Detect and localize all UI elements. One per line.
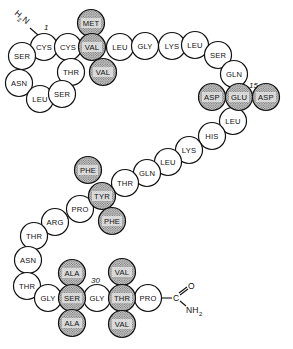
residue-label: LEU (112, 43, 127, 52)
position-marker-30: 30 (91, 276, 100, 285)
residue-label: LYS (165, 42, 179, 51)
residue-ala: ALA (59, 310, 86, 337)
residue-label: ALA (65, 319, 81, 328)
n-terminus-n: N (20, 14, 31, 26)
residue-label: VAL (96, 68, 110, 77)
residue-gln: GLN (221, 61, 248, 88)
residue-label: SER (64, 294, 81, 303)
residue-ser: SER (9, 43, 36, 70)
residue-label: PHE (104, 217, 120, 226)
residue-label: LYS (182, 146, 196, 155)
residue-label: GLY (40, 294, 55, 303)
residue-label: LEU (32, 95, 47, 104)
residue-label: PRO (139, 294, 156, 303)
residue-asp: ASP (199, 84, 226, 111)
residue-label: PRO (71, 205, 88, 214)
c-terminus-carbon: C (173, 293, 179, 303)
residue-glu: GLU (226, 84, 253, 111)
n-terminus: H 2 N 1 (11, 8, 48, 35)
residue-tyr: TYR (89, 183, 116, 210)
residue-label: CYS (60, 43, 76, 52)
residue-gly: GLY (84, 285, 111, 312)
residue-label: VAL (85, 43, 99, 52)
residue-label: LEU (225, 117, 240, 126)
residue-ala: ALA (59, 260, 86, 287)
residue-chain: CYSCYSTHRSERASNLEUSERLEUGLYLYSLEUSERGLNL… (6, 10, 280, 338)
residue-label: TYR (94, 192, 110, 201)
residue-label: ASP (258, 93, 274, 102)
n-terminus-bond (30, 28, 38, 35)
residue-val: VAL (90, 59, 117, 86)
residue-val: VAL (109, 311, 136, 338)
residue-label: GLY (89, 294, 104, 303)
residue-label: GLN (139, 169, 155, 178)
residue-phe: PHE (75, 157, 102, 184)
c-terminus-oxygen: O (188, 281, 195, 291)
c-terminus-amide: NH (186, 305, 198, 315)
residue-leu: LEU (107, 34, 134, 61)
residue-label: MET (83, 19, 100, 28)
residue-asn: ASN (15, 247, 42, 274)
residue-label: SER (54, 90, 71, 99)
residue-label: THR (26, 232, 43, 241)
residue-thr: THR (21, 223, 48, 250)
residue-label: VAL (115, 320, 129, 329)
residue-ser: SER (59, 285, 86, 312)
residue-label: HIS (205, 132, 218, 141)
position-marker-1: 1 (44, 23, 48, 32)
residue-label: ALA (65, 269, 81, 278)
residue-label: SER (210, 51, 227, 60)
residue-label: SER (14, 52, 31, 61)
residue-label: THR (19, 282, 36, 291)
residue-asp: ASP (253, 84, 280, 111)
peptide-diagram: H 2 N 1 15 30 C O NH 2 CYSCYSTHRSERASNLE… (0, 0, 293, 349)
residue-label: ARG (46, 218, 63, 227)
residue-gly: GLY (35, 285, 62, 312)
residue-thr: THR (109, 285, 136, 312)
residue-his: HIS (199, 123, 226, 150)
residue-phe: PHE (99, 208, 126, 235)
residue-val: VAL (79, 34, 106, 61)
residue-label: GLY (137, 42, 152, 51)
residue-label: ASN (11, 79, 27, 88)
residue-gly: GLY (132, 33, 159, 60)
residue-cys: CYS (55, 34, 82, 61)
residue-met: MET (78, 10, 105, 37)
residue-label: GLU (231, 93, 247, 102)
residue-label: THR (63, 68, 80, 77)
residue-label: ASN (20, 256, 36, 265)
residue-label: LEU (187, 41, 202, 50)
residue-ser: SER (49, 81, 76, 108)
residue-pro: PRO (135, 285, 162, 312)
c-terminus: C O NH 2 (162, 281, 203, 317)
residue-label: LEU (160, 158, 175, 167)
residue-label: PHE (80, 166, 96, 175)
residue-label: CYS (36, 43, 52, 52)
residue-label: THR (117, 179, 134, 188)
residue-label: ASP (204, 93, 220, 102)
residue-label: THR (114, 294, 131, 303)
c-terminus-amide-sub: 2 (199, 311, 203, 317)
residue-label: GLN (226, 70, 242, 79)
residue-val: VAL (109, 259, 136, 286)
residue-label: VAL (115, 268, 129, 277)
